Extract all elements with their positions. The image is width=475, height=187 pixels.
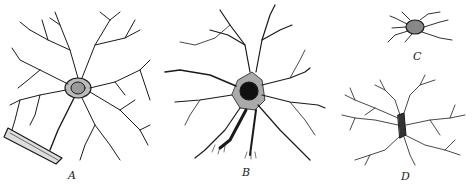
panel-c-cell	[388, 12, 452, 42]
panel-b-cell	[165, 5, 325, 160]
panel-d-label: D	[401, 170, 410, 183]
panel-a-label: A	[68, 169, 76, 182]
panel-a-cell	[4, 12, 150, 164]
panel-b-label: B	[242, 166, 250, 179]
panel-d-cell	[342, 75, 465, 165]
panel-c-label: C	[413, 50, 421, 63]
illustration-canvas	[0, 0, 475, 187]
